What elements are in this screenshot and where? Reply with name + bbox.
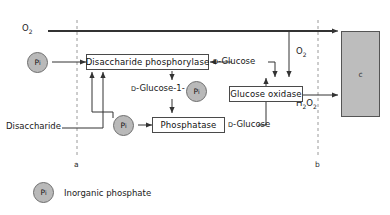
phosphate-node-phosphatase[interactable]: Pi [113,115,134,136]
label-d-glucose-bottom: D-Glucose [228,120,270,129]
legend-text: Inorganic phosphate [64,189,151,198]
phosphate-node-left[interactable]: Pi [27,52,48,73]
boundary-label-b: b [315,160,320,169]
legend-phosphate-icon: Pi [33,182,54,203]
phosphate-node-glucose-1-phosphate[interactable]: Pi [186,81,207,102]
enzyme-label: Phosphatase [161,120,217,130]
boundary-label-a: a [74,160,79,169]
electrode-label: c [358,70,362,79]
diagram-vector-layer [0,0,390,215]
electrode-block[interactable]: c [341,31,380,117]
label-disaccharide: Disaccharide [6,122,61,131]
enzyme-label: Disaccharide phosphorylase [86,57,210,67]
enzyme-box-disaccharide-phosphorylase[interactable]: Disaccharide phosphorylase [86,54,209,70]
enzyme-box-glucose-oxidase[interactable]: Glucose oxidase [229,86,303,102]
diagram-canvas: O2 O2 H2O2 Disaccharide Disaccharide pho… [0,0,390,215]
line-disaccharide-feed [62,72,103,128]
label-oxygen-mid: O2 [296,47,307,58]
enzyme-box-phosphatase[interactable]: Phosphatase [152,117,225,133]
line-glucose-to-oxidase [268,62,275,77]
enzyme-label: Glucose oxidase [230,89,301,99]
label-oxygen-top: O2 [22,24,33,35]
label-d-glucose-1-phosphate: D-Glucose-1- [131,84,185,93]
label-d-glucose-top: D-Glucose [213,57,255,66]
